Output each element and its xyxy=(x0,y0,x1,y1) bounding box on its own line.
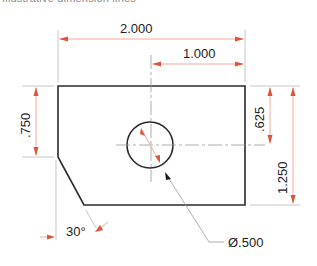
arrowhead xyxy=(47,235,55,240)
arrowhead xyxy=(235,62,244,67)
dim-label-diameter: Ø.500 xyxy=(228,235,263,250)
dim-label-30deg: 30° xyxy=(66,224,86,239)
arrowhead xyxy=(268,135,273,144)
dim-label-1250: 1.250 xyxy=(275,161,290,194)
arrowhead xyxy=(268,87,273,96)
diameter-leader-line xyxy=(166,174,224,242)
arrowhead xyxy=(155,155,160,163)
leader-arrowhead xyxy=(165,172,171,180)
arrowhead xyxy=(291,195,296,204)
part-outline xyxy=(58,86,245,205)
arrowhead xyxy=(152,62,161,67)
dim-label-1000: 1.000 xyxy=(183,46,216,61)
arrowhead xyxy=(235,37,244,42)
extension-line-chamfer-diagonal xyxy=(86,210,96,228)
technical-drawing: 2.000 1.000 .750 .625 1.250 30° Ø.500 xyxy=(0,0,317,266)
dim-label-2000: 2.000 xyxy=(120,21,153,36)
arrowhead xyxy=(140,128,145,136)
dim-label-625: .625 xyxy=(252,107,267,132)
arrowhead xyxy=(291,87,296,96)
arrowhead xyxy=(95,225,103,232)
arrowhead xyxy=(34,147,39,156)
dim-label-750: .750 xyxy=(18,113,33,138)
arrowhead xyxy=(59,37,68,42)
arrowhead xyxy=(34,87,39,96)
